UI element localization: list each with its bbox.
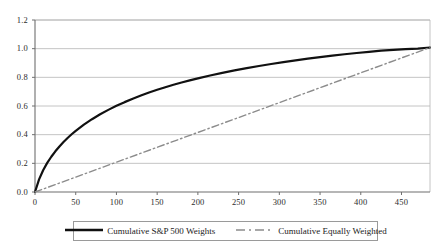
series-line-2 bbox=[35, 48, 430, 192]
y-axis-tick-label: 0.4 bbox=[4, 129, 28, 139]
y-axis-tick-label: 0.0 bbox=[4, 187, 28, 197]
x-axis-tick-label: 300 bbox=[264, 197, 294, 207]
y-axis-tick-label: 1.0 bbox=[4, 43, 28, 53]
y-axis-tick-label: 1.2 bbox=[4, 15, 28, 25]
solid-line-swatch bbox=[64, 225, 104, 237]
x-axis-tick-label: 450 bbox=[386, 197, 416, 207]
x-axis-tick-label: 200 bbox=[183, 197, 213, 207]
x-axis-tick-label: 50 bbox=[61, 197, 91, 207]
x-axis-tick-label: 150 bbox=[142, 197, 172, 207]
y-axis-tick-label: 0.2 bbox=[4, 158, 28, 168]
legend-item-cumulative-sp500: Cumulative S&P 500 Weights bbox=[64, 225, 215, 237]
dash-dot-line-swatch bbox=[235, 225, 275, 237]
x-axis-tick-label: 350 bbox=[305, 197, 335, 207]
y-axis-tick-label: 0.8 bbox=[4, 72, 28, 82]
y-axis-tick-label: 0.6 bbox=[4, 101, 28, 111]
x-axis-tick-label: 0 bbox=[20, 197, 50, 207]
legend-item-cumulative-equally-weighted: Cumulative Equally Weighted bbox=[235, 225, 387, 237]
legend-label-cumulative-equally-weighted: Cumulative Equally Weighted bbox=[278, 227, 387, 236]
chart-figure: 0.00.20.40.60.81.01.2 050100150200250300… bbox=[0, 0, 443, 247]
chart-legend: Cumulative S&P 500 Weights Cumulative Eq… bbox=[73, 221, 378, 241]
legend-label-cumulative-sp500: Cumulative S&P 500 Weights bbox=[107, 227, 215, 236]
chart-plot-area bbox=[0, 0, 443, 247]
x-axis-tick-label: 250 bbox=[224, 197, 254, 207]
x-axis-tick-label: 400 bbox=[346, 197, 376, 207]
x-axis-tick-label: 100 bbox=[101, 197, 131, 207]
